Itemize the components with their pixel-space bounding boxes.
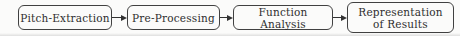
- scan-artifact: [0, 33, 460, 36]
- node-pre-processing-label: Pre-Processing: [132, 12, 215, 24]
- node-pre-processing: Pre-Processing: [127, 5, 220, 30]
- node-function-analysis: Function Analysis: [233, 5, 333, 30]
- node-representation-of-results-label-line2: of Results: [373, 18, 428, 30]
- node-pitch-extraction-label: Pitch-Extraction: [20, 12, 110, 24]
- flow-arrow-1: [112, 15, 127, 21]
- node-representation-of-results: Representation of Results: [347, 2, 454, 33]
- flowchart: Pitch-Extraction Pre-Processing Function…: [0, 0, 460, 36]
- node-function-analysis-label: Function Analysis: [234, 6, 332, 30]
- flow-arrow-2: [220, 15, 233, 21]
- arrow-shaft: [220, 17, 227, 18]
- arrow-shaft: [333, 17, 341, 18]
- arrow-shaft: [112, 17, 121, 18]
- node-representation-of-results-label-line1: Representation: [358, 6, 442, 18]
- node-pitch-extraction: Pitch-Extraction: [18, 5, 112, 30]
- flow-arrow-3: [333, 15, 347, 21]
